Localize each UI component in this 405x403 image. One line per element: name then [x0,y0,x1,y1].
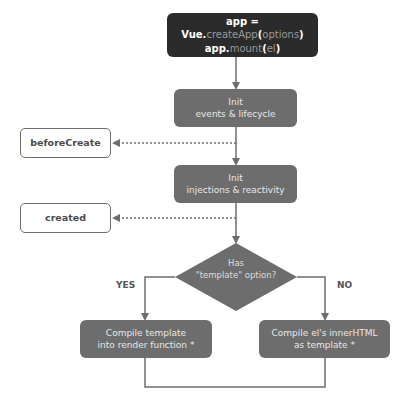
compile-el-node: Compile el's innerHTML as template * [259,320,390,358]
created-hook: created [20,203,111,233]
init-injections-node: Init injections & reactivity [174,165,297,203]
init-events-node: Init events & lifecycle [174,89,297,127]
compile-template-node: Compile template into render function * [80,320,212,358]
no-label: NO [337,280,352,290]
create-app-node: app = Vue.createApp(options) app.mount(e… [167,13,318,57]
decision-text: Has "template" option? [175,258,297,282]
before-create-hook: beforeCreate [20,128,111,158]
yes-label: YES [116,280,135,290]
mount-line: app.mount(el) [205,42,280,56]
create-app-line: app = Vue.createApp(options) [167,15,318,42]
